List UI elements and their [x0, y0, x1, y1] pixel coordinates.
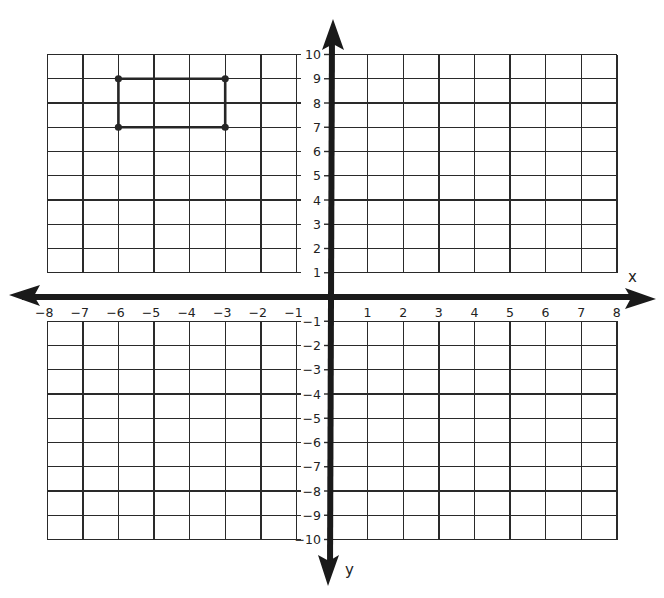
x-tick-label: 7 — [577, 305, 585, 320]
x-tick-label: 3 — [435, 305, 443, 320]
y-tick-label: −9 — [303, 508, 321, 523]
quadrant-2-grid — [47, 55, 301, 273]
x-tick-label: 8 — [613, 305, 621, 320]
x-tick-label: −8 — [35, 305, 53, 320]
vertex-point — [115, 75, 122, 82]
x-tick-label: −5 — [142, 305, 160, 320]
x-tick-label: −4 — [177, 305, 195, 320]
quadrant-1-grid — [332, 55, 617, 273]
y-tick-label: 7 — [313, 120, 321, 135]
vertex-point — [222, 124, 229, 131]
y-tick-label: 4 — [313, 193, 321, 208]
y-tick-label: 9 — [313, 71, 321, 86]
y-tick-label: 5 — [313, 168, 321, 183]
x-tick-label: −1 — [284, 305, 302, 320]
quadrant-4-grid — [332, 321, 617, 539]
y-tick-label: −2 — [303, 338, 321, 353]
x-tick-label: −6 — [106, 305, 124, 320]
vertex-point — [222, 75, 229, 82]
y-tick-label: 3 — [313, 217, 321, 232]
x-tick-label: 2 — [399, 305, 407, 320]
y-tick-label: 6 — [313, 144, 321, 159]
coordinate-plane: x y −8−7−6−5−4−3−2−11234567810987654321−… — [0, 0, 664, 598]
y-tick-label: −10 — [295, 532, 321, 547]
x-tick-label: −7 — [71, 305, 89, 320]
y-tick-label: −8 — [303, 484, 321, 499]
y-tick-label: −6 — [303, 435, 321, 450]
y-tick-label: −4 — [303, 387, 321, 402]
y-tick-label: −1 — [303, 314, 321, 329]
x-axis-label: x — [628, 268, 637, 286]
x-tick-label: 1 — [364, 305, 372, 320]
y-tick-label: 10 — [305, 47, 321, 62]
x-tick-label: −3 — [213, 305, 231, 320]
y-tick-label: −3 — [303, 362, 321, 377]
y-tick-label: 2 — [313, 241, 321, 256]
y-tick-label: 8 — [313, 96, 321, 111]
x-tick-label: 5 — [506, 305, 514, 320]
y-tick-label: −7 — [303, 459, 321, 474]
y-axis-label: y — [345, 561, 354, 579]
y-tick-label: 1 — [313, 265, 321, 280]
vertex-point — [115, 124, 122, 131]
x-tick-label: 4 — [470, 305, 478, 320]
axes: x y — [9, 19, 656, 586]
quadrant-3-grid — [47, 321, 301, 539]
y-tick-label: −5 — [303, 411, 321, 426]
x-tick-label: 6 — [542, 305, 550, 320]
y-axis — [330, 32, 332, 570]
x-tick-label: −2 — [249, 305, 267, 320]
